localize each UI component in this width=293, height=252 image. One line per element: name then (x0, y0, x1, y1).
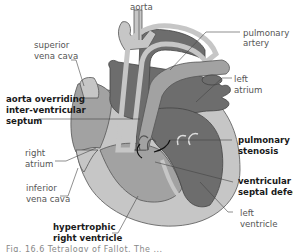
label-hypertrophic-rv-line1: hypertrophic (53, 222, 116, 232)
label-pulmonary-artery-line2: artery (243, 38, 269, 48)
label-ventricular-septal-defect-line1: ventricular (238, 176, 291, 186)
label-left-ventricle-line2: ventricle (240, 219, 278, 229)
label-left-atrium-line1: left (234, 74, 248, 84)
label-pulmonary-stenosis-line2: stenosis (238, 146, 278, 156)
label-aorta: aorta (130, 2, 153, 12)
label-right-atrium-line1: right (25, 148, 45, 158)
label-left-atrium-line2: atrium (234, 85, 262, 95)
label-hypertrophic-rv-line2: right ventricle (53, 233, 122, 243)
label-superior-vena-cava-line1: superior (34, 40, 69, 50)
label-superior-vena-cava-line2: vena cava (34, 51, 78, 61)
figure-caption: Fig. 16.6 Tetralogy of Fallot. The ... (0, 245, 293, 252)
label-pulmonary-artery-line1: pulmonary (243, 28, 289, 38)
label-inferior-vena-cava-line1: inferior (26, 183, 57, 193)
label-pulmonary-stenosis-line1: pulmonary (238, 135, 290, 145)
label-aorta-overriding-line3: septum (6, 116, 42, 126)
label-ventricular-septal-defect-line2: septal defect (238, 187, 293, 197)
label-aorta-overriding-line2: inter-ventricular (6, 105, 86, 115)
label-aorta-overriding-line1: aorta overriding (6, 94, 85, 104)
label-left-ventricle-line1: left (240, 208, 254, 218)
label-right-atrium-line2: atrium (25, 159, 53, 169)
label-inferior-vena-cava-line2: vena cava (26, 194, 70, 204)
pulmonary-vein (202, 75, 222, 85)
